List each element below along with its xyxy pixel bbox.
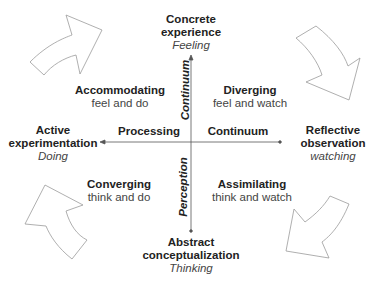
curved-arrow-top-left-icon bbox=[30, 15, 102, 75]
curved-arrow-bottom-right-icon bbox=[286, 196, 349, 258]
quadrant-top-left-sub: feel and do bbox=[70, 97, 170, 110]
pole-left-sub: Doing bbox=[5, 150, 101, 163]
pole-right-sub: watching bbox=[290, 150, 376, 163]
quadrant-bottom-right-sub: think and watch bbox=[210, 191, 294, 204]
axis-label-continuum-vertical: Continuum bbox=[179, 55, 191, 125]
quadrant-bottom-left-sub: think and do bbox=[84, 191, 154, 204]
curved-arrow-bottom-left-icon bbox=[25, 185, 87, 259]
axis-label-processing: Processing bbox=[114, 125, 184, 138]
quadrant-top-right-title: Diverging bbox=[210, 84, 290, 97]
quadrant-accommodating: Accommodating feel and do bbox=[70, 84, 170, 110]
pole-reflective-observation: Reflective observation watching bbox=[290, 124, 376, 163]
pole-concrete-experience: Concrete experience Feeling bbox=[146, 13, 236, 52]
quadrant-bottom-right-title: Assimilating bbox=[210, 178, 294, 191]
quadrant-converging: Converging think and do bbox=[84, 178, 154, 204]
pole-abstract-conceptualization: Abstract conceptualization Thinking bbox=[136, 236, 246, 275]
pole-top-title-2: experience bbox=[146, 26, 236, 39]
pole-left-title-2: experimentation bbox=[5, 137, 101, 150]
pole-bottom-sub: Thinking bbox=[136, 262, 246, 275]
pole-left-title-1: Active bbox=[5, 124, 101, 137]
quadrant-assimilating: Assimilating think and watch bbox=[210, 178, 294, 204]
pole-right-title-1: Reflective bbox=[290, 124, 376, 137]
pole-top-title-1: Concrete bbox=[146, 13, 236, 26]
quadrant-bottom-left-title: Converging bbox=[84, 178, 154, 191]
pole-bottom-title-1: Abstract bbox=[136, 236, 246, 249]
quadrant-top-right-sub: feel and watch bbox=[210, 97, 290, 110]
curved-arrow-top-right-icon bbox=[296, 26, 360, 100]
axis-label-perception: Perception bbox=[177, 152, 189, 222]
pole-active-experimentation: Active experimentation Doing bbox=[5, 124, 101, 163]
pole-bottom-title-2: conceptualization bbox=[136, 249, 246, 262]
quadrant-diverging: Diverging feel and watch bbox=[210, 84, 290, 110]
pole-right-title-2: observation bbox=[290, 137, 376, 150]
pole-top-sub: Feeling bbox=[146, 39, 236, 52]
axis-label-continuum-horizontal: Continuum bbox=[200, 125, 276, 138]
quadrant-top-left-title: Accommodating bbox=[70, 84, 170, 97]
